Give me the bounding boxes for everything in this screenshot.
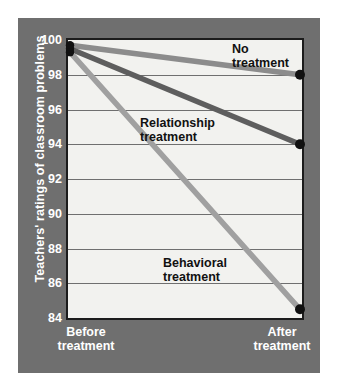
- y-axis-tick: 94: [22, 137, 62, 151]
- y-axis-tick: 88: [22, 242, 62, 256]
- y-axis-tick-labels: 8486889092949698100: [18, 38, 62, 320]
- data-point-marker: [66, 48, 74, 56]
- chart-figure: Teachers' ratings of classroom problems …: [0, 0, 337, 391]
- series-label-no-treatment: No treatment: [232, 42, 289, 70]
- y-axis-tick: 84: [22, 311, 62, 325]
- x-axis-label-before: Before treatment: [26, 325, 146, 354]
- y-axis-tick: 96: [22, 103, 62, 117]
- y-axis-tick: 98: [22, 68, 62, 82]
- y-axis-tick: 86: [22, 276, 62, 290]
- x-axis-label-after: After treatment: [222, 325, 337, 354]
- series-label-behavioral-treatment: Behavioral treatment: [163, 256, 227, 284]
- data-point-marker: [295, 70, 305, 80]
- y-axis-tick: 100: [22, 33, 62, 47]
- data-point-marker: [295, 304, 305, 314]
- data-point-marker: [295, 139, 305, 149]
- series-label-relationship-treatment: Relationship treatment: [140, 116, 215, 144]
- y-axis-tick: 90: [22, 207, 62, 221]
- y-axis-tick: 92: [22, 172, 62, 186]
